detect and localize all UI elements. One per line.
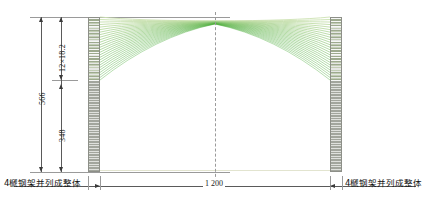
centerline	[215, 12, 216, 187]
span-witness-right	[342, 176, 343, 190]
note-right: 4榹钢架并列成整体	[345, 176, 422, 188]
dimension-span: 1 200	[203, 179, 225, 188]
dimension-arrow-span-left	[95, 184, 100, 188]
dimension-arrow-span-right	[330, 184, 335, 188]
arch-ribs-right	[215, 17, 330, 80]
note-left: 4榹钢架并列成整体	[4, 176, 81, 188]
span-witness-left-inner	[100, 176, 101, 190]
drawing-canvas: 566 12×18.2 348	[0, 0, 430, 205]
arch-ribs-left	[100, 17, 215, 80]
span-witness-left	[88, 176, 89, 190]
